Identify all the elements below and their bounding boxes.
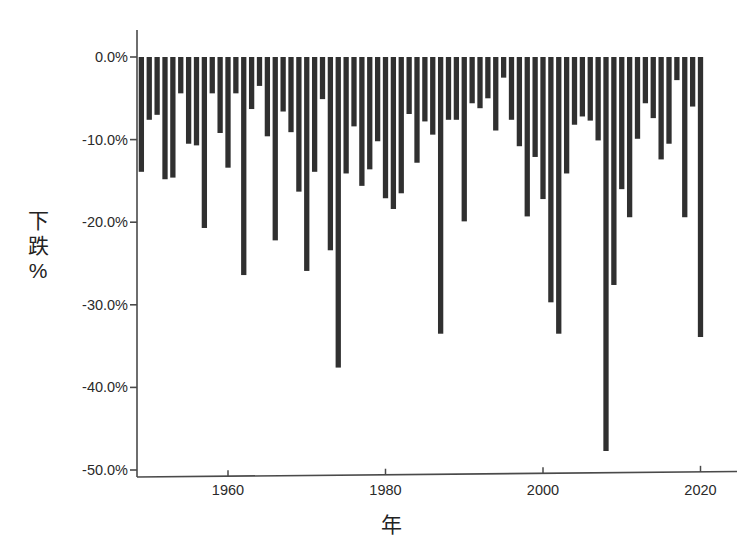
bar <box>690 57 695 107</box>
bar <box>186 57 191 144</box>
x-axis-spine <box>137 472 737 478</box>
bar <box>485 57 490 98</box>
bar <box>611 57 616 285</box>
bar <box>509 57 514 120</box>
bar <box>430 57 435 135</box>
bar <box>627 57 632 217</box>
bar <box>406 57 411 114</box>
chart-figure: 下 跌 % 年 0.0%-10.0%-20.0%-30.0%-40.0%-50.… <box>0 0 745 545</box>
bar <box>367 57 372 169</box>
bar <box>194 57 199 145</box>
bar <box>469 57 474 103</box>
bar <box>312 57 317 172</box>
bar <box>651 57 656 118</box>
bar <box>666 57 671 144</box>
bar <box>265 57 270 136</box>
bar <box>595 57 600 140</box>
bar <box>462 57 467 221</box>
bar <box>422 57 427 121</box>
bar <box>454 57 459 120</box>
bar <box>241 57 246 275</box>
bar <box>532 57 537 157</box>
bar-series <box>139 57 703 451</box>
bar <box>147 57 152 120</box>
bar <box>399 57 404 193</box>
bar <box>304 57 309 271</box>
bar <box>698 57 703 337</box>
bar <box>178 57 183 93</box>
bar <box>540 57 545 199</box>
bar <box>658 57 663 159</box>
bar <box>635 57 640 139</box>
bar <box>288 57 293 132</box>
bar <box>202 57 207 228</box>
bar <box>643 57 648 103</box>
bar <box>257 57 262 86</box>
bar <box>588 57 593 121</box>
bar <box>603 57 608 451</box>
bar <box>493 57 498 131</box>
bar <box>674 57 679 80</box>
bar <box>619 57 624 189</box>
bar <box>391 57 396 209</box>
bar <box>580 57 585 116</box>
bar <box>217 57 222 133</box>
bar <box>280 57 285 112</box>
bar <box>556 57 561 334</box>
plot-area <box>0 0 745 545</box>
bar <box>233 57 238 93</box>
bar <box>682 57 687 217</box>
bar <box>501 57 506 78</box>
bar <box>359 57 364 186</box>
bar <box>296 57 301 192</box>
bar <box>170 57 175 178</box>
bar <box>517 57 522 146</box>
bar <box>225 57 230 168</box>
bar <box>375 57 380 141</box>
bar <box>249 57 254 109</box>
bar <box>139 57 144 172</box>
bar <box>438 57 443 334</box>
bar <box>210 57 215 93</box>
bar <box>320 57 325 99</box>
bar <box>477 57 482 108</box>
bar <box>525 57 530 216</box>
bar <box>383 57 388 198</box>
bar <box>336 57 341 368</box>
bar <box>572 57 577 125</box>
bar <box>273 57 278 240</box>
bar <box>328 57 333 250</box>
bar <box>351 57 356 126</box>
bar <box>564 57 569 173</box>
bar <box>343 57 348 173</box>
bar <box>162 57 167 179</box>
bar <box>154 57 159 115</box>
bar <box>414 57 419 163</box>
bar <box>548 57 553 302</box>
bar <box>446 57 451 120</box>
